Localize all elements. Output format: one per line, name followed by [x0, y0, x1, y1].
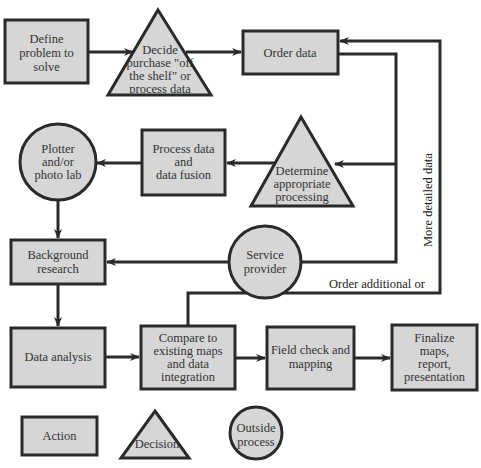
- flowchart-canvas: More detailed data Order additional or D…: [0, 0, 481, 468]
- svg-text:Service: Service: [246, 248, 284, 262]
- svg-text:and: and: [174, 155, 193, 169]
- svg-text:problem to: problem to: [19, 46, 74, 60]
- svg-text:Outside: Outside: [237, 421, 276, 435]
- node-service-provider: Service provider: [229, 226, 301, 298]
- svg-text:Finalize: Finalize: [414, 331, 455, 345]
- svg-text:Order data: Order data: [263, 46, 317, 60]
- svg-text:Field check and: Field check and: [271, 343, 351, 357]
- legend-action: Action: [22, 417, 97, 455]
- node-compare-maps: Compare to existing maps and data integr…: [141, 326, 235, 389]
- svg-text:Data analysis: Data analysis: [25, 350, 92, 364]
- legend-decision: Decision: [121, 411, 189, 458]
- node-field-check: Field check and mapping: [267, 327, 354, 389]
- svg-text:Plotter: Plotter: [41, 142, 75, 156]
- svg-text:and/or: and/or: [42, 155, 75, 169]
- node-plotter-photo-lab: Plotter and/or photo lab: [20, 124, 96, 200]
- svg-text:provider: provider: [244, 262, 287, 276]
- svg-text:Decision: Decision: [135, 437, 180, 451]
- svg-text:processing: processing: [275, 190, 329, 204]
- svg-text:the shelf" or: the shelf" or: [129, 69, 191, 83]
- svg-text:Background: Background: [27, 248, 89, 262]
- svg-text:integration: integration: [161, 370, 216, 384]
- node-finalize: Finalize maps, report, presentation: [392, 325, 477, 390]
- svg-text:solve: solve: [33, 60, 60, 74]
- legend: Action Decision Outside process: [22, 407, 282, 459]
- svg-text:Action: Action: [42, 429, 77, 443]
- svg-text:existing maps: existing maps: [153, 344, 222, 358]
- svg-text:maps,: maps,: [420, 344, 450, 358]
- svg-text:data fusion: data fusion: [156, 168, 212, 182]
- svg-text:mapping: mapping: [289, 357, 333, 371]
- svg-text:Determine: Determine: [276, 164, 329, 178]
- node-background-research: Background research: [11, 240, 105, 284]
- svg-text:research: research: [37, 262, 79, 276]
- svg-text:appropriate: appropriate: [274, 177, 331, 191]
- node-order-data: Order data: [243, 31, 338, 74]
- svg-text:photo lab: photo lab: [35, 168, 82, 182]
- svg-text:report,: report,: [418, 357, 451, 371]
- svg-text:and data: and data: [167, 357, 209, 371]
- svg-text:process: process: [237, 435, 275, 449]
- svg-text:Define: Define: [29, 32, 63, 46]
- edge-label-order-additional: Order additional or: [329, 277, 426, 291]
- node-data-analysis: Data analysis: [11, 328, 105, 387]
- svg-text:Process data: Process data: [152, 142, 215, 156]
- svg-text:process data: process data: [129, 82, 191, 96]
- svg-text:Compare to: Compare to: [159, 331, 218, 345]
- svg-text:purchase "off: purchase "off: [127, 56, 195, 70]
- edge-label-more-detailed-data: More detailed data: [421, 153, 435, 247]
- svg-text:presentation: presentation: [404, 370, 466, 384]
- node-process-data: Process data and data fusion: [142, 130, 225, 195]
- legend-outside-process: Outside process: [230, 407, 282, 459]
- svg-text:Decide: Decide: [142, 43, 178, 57]
- node-define-problem: Define problem to solve: [5, 20, 88, 83]
